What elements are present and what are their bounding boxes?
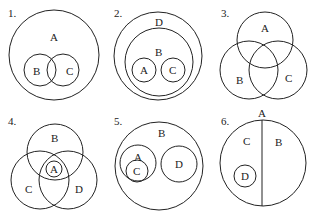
circle-c (47, 54, 79, 86)
circle-d (39, 151, 97, 209)
venn-diagram-figure: 1. A B C 2. D B A C 3. A B C 4. B C (0, 0, 315, 218)
panel-number: 4. (8, 115, 17, 127)
label-d: D (155, 16, 163, 28)
panel-4: 4. B C D A (8, 115, 97, 209)
label-c: C (133, 165, 140, 177)
label-c: C (66, 65, 73, 77)
panel-5: 5. B A C D (114, 115, 203, 210)
label-a: A (261, 22, 269, 34)
panel-2: 2. D B A C (114, 7, 202, 100)
label-b: B (236, 74, 243, 86)
label-a: A (258, 107, 266, 119)
label-a: A (140, 64, 148, 76)
panel-number: 3. (221, 7, 230, 19)
panel-number: 1. (8, 7, 17, 19)
label-d: D (75, 183, 83, 195)
label-c: C (285, 72, 292, 84)
panel-1: 1. A B C (8, 7, 99, 100)
panel-6: 6. A C B D (220, 107, 306, 206)
circle-a (237, 12, 293, 68)
label-b: B (275, 136, 282, 148)
label-b: B (158, 127, 165, 139)
label-d: D (241, 170, 249, 182)
panel-3: 3. A B C (220, 7, 307, 99)
panel-number: 2. (114, 7, 123, 19)
circle-a (9, 10, 99, 100)
label-c: C (169, 64, 176, 76)
label-a: A (134, 151, 142, 163)
circle-a (220, 120, 306, 206)
label-b: B (33, 65, 40, 77)
label-a: A (50, 163, 58, 175)
panel-number: 5. (114, 115, 123, 127)
label-a: A (50, 31, 58, 43)
label-b: B (51, 132, 58, 144)
label-b: B (155, 46, 162, 58)
panel-number: 6. (221, 115, 230, 127)
label-c: C (25, 183, 32, 195)
label-c: C (243, 135, 250, 147)
label-d: D (175, 158, 183, 170)
